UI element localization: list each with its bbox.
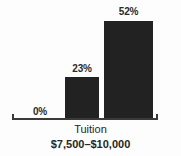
chart-subtitle: $7,500–$10,000	[0, 138, 181, 150]
axis-end-cap-right-icon	[156, 114, 158, 120]
bar-label-1: 23%	[63, 63, 101, 74]
plot-area: 0% 23% 52%	[0, 0, 181, 120]
bar-label-0: 0%	[18, 106, 62, 117]
bar-label-2: 52%	[104, 6, 153, 17]
bar-2	[104, 21, 153, 120]
axis-end-cap-left-icon	[12, 114, 14, 120]
bar-chart-figure: 0% 23% 52% Tuition $7,500–$10,000	[0, 0, 181, 156]
x-axis-baseline	[12, 118, 158, 120]
bar-1	[65, 77, 99, 120]
chart-title: Tuition	[0, 123, 181, 135]
